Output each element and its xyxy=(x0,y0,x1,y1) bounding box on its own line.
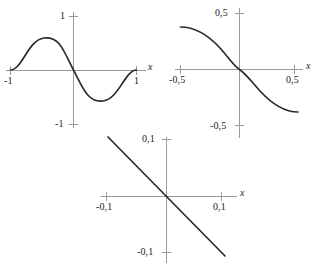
plot-1-canvas xyxy=(0,0,160,130)
plot-3-x-axis-label: x xyxy=(240,188,245,198)
plot-1-x-right-label: 1 xyxy=(134,76,139,86)
plot-1-x-left-label: -1 xyxy=(4,76,13,86)
plot-2-x-right-label: 0,5 xyxy=(286,75,299,85)
plot-2-x-left-label: -0,5 xyxy=(169,75,185,85)
plot-3-canvas xyxy=(95,125,255,264)
plot-3: 0,1 -0,1 -0,1 0,1 x xyxy=(95,125,255,264)
plot-2-x-axis-label: x xyxy=(306,61,311,71)
plot-1: 1 -1 -1 1 x xyxy=(0,0,160,130)
plot-3-x-left-label: -0,1 xyxy=(96,202,112,212)
plot-1-y-bottom-label: -1 xyxy=(55,119,64,129)
plot-3-y-bottom-label: -0,1 xyxy=(137,247,153,257)
plot-2-y-top-label: 0,5 xyxy=(215,8,228,18)
plot-1-y-top-label: 1 xyxy=(60,11,65,21)
plot-3-y-top-label: 0,1 xyxy=(142,134,155,144)
plot-3-x-right-label: 0,1 xyxy=(213,202,226,212)
plot-1-x-axis-label: x xyxy=(148,62,153,72)
plot-2-canvas xyxy=(165,0,317,140)
figure-three-plots: 1 -1 -1 1 x 0,5 -0,5 -0,5 0,5 x xyxy=(0,0,317,264)
plot-2: 0,5 -0,5 -0,5 0,5 x xyxy=(165,0,317,140)
